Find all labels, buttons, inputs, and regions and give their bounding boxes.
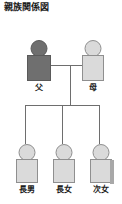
person-body-icon: [90, 159, 112, 183]
child-stem-line-2: [62, 105, 63, 144]
person-label-father: 父: [35, 83, 43, 93]
descent-drop-line: [70, 65, 71, 105]
person-body-icon: [16, 159, 38, 183]
child-stem-line-3: [99, 105, 100, 144]
page-title: 親族関係図: [4, 2, 49, 13]
person-body-icon: [82, 55, 104, 81]
child-stem-line-1: [25, 105, 26, 144]
person-label-second-daughter: 次女: [93, 185, 109, 195]
family-tree-diagram-canvas: 親族関係図 父 母 長男 長女 次女: [0, 0, 122, 204]
person-label-eldest-son: 長男: [19, 185, 35, 195]
person-label-mother: 母: [89, 83, 97, 93]
person-body-icon: [53, 159, 75, 183]
person-body-icon: [27, 55, 51, 81]
person-body-shadow: [110, 160, 114, 184]
person-label-eldest-daughter: 長女: [56, 185, 72, 195]
